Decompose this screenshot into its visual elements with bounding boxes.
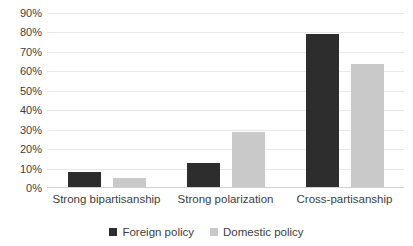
legend-label: Foreign policy bbox=[122, 226, 194, 238]
legend-label: Domestic policy bbox=[223, 226, 304, 238]
legend-item[interactable]: Foreign policy bbox=[109, 226, 194, 238]
legend-swatch-icon bbox=[210, 228, 218, 236]
y-axis-tick-label: 90% bbox=[0, 8, 42, 19]
y-axis-tick-label: 80% bbox=[0, 27, 42, 38]
y-axis-tick-label: 70% bbox=[0, 46, 42, 57]
bar[interactable] bbox=[187, 163, 220, 188]
axis-baseline bbox=[47, 187, 404, 188]
y-axis-tick-label: 0% bbox=[0, 183, 42, 194]
x-axis: Strong bipartisanshipStrong polarization… bbox=[47, 192, 404, 206]
bar[interactable] bbox=[232, 132, 265, 188]
y-axis-tick-label: 30% bbox=[0, 124, 42, 135]
bar-chart: 0%10%20%30%40%50%60%70%80%90% Strong bip… bbox=[0, 0, 413, 246]
y-axis-tick-label: 50% bbox=[0, 85, 42, 96]
x-axis-tick-label: Cross-partisanship bbox=[285, 192, 404, 206]
y-axis-tick-label: 10% bbox=[0, 163, 42, 174]
x-axis-tick-label: Strong bipartisanship bbox=[47, 192, 166, 206]
bar[interactable] bbox=[68, 172, 101, 188]
bar-pair bbox=[47, 13, 166, 188]
y-axis-tick-label: 20% bbox=[0, 144, 42, 155]
bar[interactable] bbox=[306, 34, 339, 188]
y-axis: 0%10%20%30%40%50%60%70%80%90% bbox=[0, 0, 42, 201]
chart-legend: Foreign policyDomestic policy bbox=[0, 226, 413, 238]
bar-groups bbox=[47, 13, 404, 188]
legend-item[interactable]: Domestic policy bbox=[210, 226, 304, 238]
legend-swatch-icon bbox=[109, 228, 117, 236]
x-axis-tick-label: Strong polarization bbox=[166, 192, 285, 206]
bar-pair bbox=[166, 13, 285, 188]
bar-pair bbox=[285, 13, 404, 188]
bar-group bbox=[47, 13, 166, 188]
y-axis-tick-label: 60% bbox=[0, 66, 42, 77]
y-axis-tick-label: 40% bbox=[0, 105, 42, 116]
plot-area bbox=[47, 13, 404, 188]
bar[interactable] bbox=[351, 64, 384, 188]
bar-group bbox=[285, 13, 404, 188]
bar-group bbox=[166, 13, 285, 188]
